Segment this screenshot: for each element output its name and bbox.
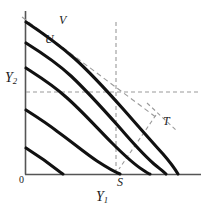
- origin-label: 0: [19, 175, 24, 185]
- point-label-v: V: [59, 14, 66, 26]
- figure-canvas: V U T S Y2 Y1 0: [0, 0, 213, 214]
- curve-4: [26, 110, 120, 174]
- point-label-s: S: [117, 176, 123, 188]
- y-axis-label-subscript: 2: [13, 76, 17, 86]
- x-axis-label: Y1: [96, 190, 108, 204]
- y-axis-label: Y2: [5, 71, 17, 85]
- x-axis-label-subscript: 1: [104, 195, 108, 205]
- diagram-svg: [0, 0, 213, 214]
- point-label-u: U: [45, 33, 54, 45]
- point-label-t: T: [163, 115, 170, 127]
- curve-5-innermost: [26, 148, 63, 174]
- short-dashed-tangent-at-T: [147, 103, 177, 131]
- y-axis-label-text: Y: [5, 70, 13, 85]
- x-axis-label-text: Y: [96, 189, 104, 204]
